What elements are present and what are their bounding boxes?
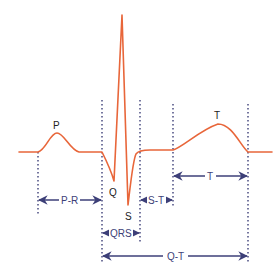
label-s-wave: S — [125, 211, 132, 222]
label-pr-interval: P-R — [61, 195, 78, 206]
label-q-wave: Q — [109, 187, 117, 198]
interval-t: T — [174, 169, 247, 182]
label-st-segment: S-T — [148, 195, 164, 206]
interval-qrs: QRS — [103, 226, 139, 239]
label-qrs-complex: QRS — [110, 228, 132, 239]
label-t-interval: T — [207, 171, 213, 182]
label-p-wave: P — [53, 120, 60, 131]
label-t-wave: T — [214, 110, 220, 121]
interval-pr: P-R — [39, 193, 101, 206]
label-qt-interval: Q-T — [167, 251, 184, 262]
interval-qt: Q-T — [103, 249, 247, 262]
ecg-diagram: P Q S T P-R S-T T QRS — [0, 0, 280, 280]
ecg-svg: P Q S T P-R S-T T QRS — [0, 0, 280, 280]
interval-st: S-T — [141, 193, 172, 206]
